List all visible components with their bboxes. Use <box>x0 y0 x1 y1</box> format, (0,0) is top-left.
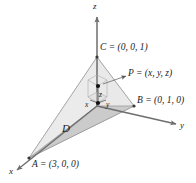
x-axis-label: x <box>9 167 13 176</box>
z-axis-label: z <box>93 2 97 11</box>
z-component-label: z <box>99 91 102 99</box>
y-axis-label: y <box>180 121 184 130</box>
point-C-dot <box>95 55 98 58</box>
point-C-label: C = (0, 0, 1) <box>100 43 148 53</box>
y-component-label: y <box>106 101 109 109</box>
point-B-dot <box>132 104 135 107</box>
figure-canvas: z y x C = (0, 0, 1) P = (x, y, z) B = (0… <box>0 0 196 183</box>
point-P-dot <box>96 84 100 88</box>
point-P-label: P = (x, y, z) <box>128 69 172 79</box>
domain-label-D: D <box>62 123 70 134</box>
point-A-label: A = (3, 0, 0) <box>32 160 79 170</box>
x-component-label: x <box>85 101 88 109</box>
tetrahedron-faces <box>29 57 134 158</box>
diagram-svg <box>0 0 196 183</box>
point-base-dot <box>96 101 100 105</box>
point-A-dot <box>27 156 30 159</box>
point-B-label: B = (0, 1, 0) <box>137 96 184 106</box>
